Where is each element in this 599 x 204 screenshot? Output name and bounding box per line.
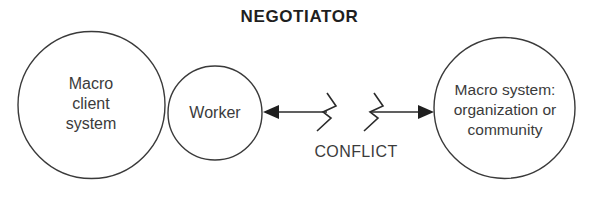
diagram-title: NEGOTIATOR — [0, 7, 599, 27]
worker-label: Worker — [170, 103, 260, 123]
negotiator-diagram: NEGOTIATOR Macro client system Worker Ma… — [0, 0, 599, 204]
macro-client-system-label: Macro client system — [27, 74, 155, 134]
conflict-connector — [263, 93, 434, 131]
arrowhead-left-icon — [263, 105, 279, 119]
macro-system-label: Macro system: organization or community — [426, 80, 584, 140]
conflict-label: CONFLICT — [283, 142, 429, 162]
